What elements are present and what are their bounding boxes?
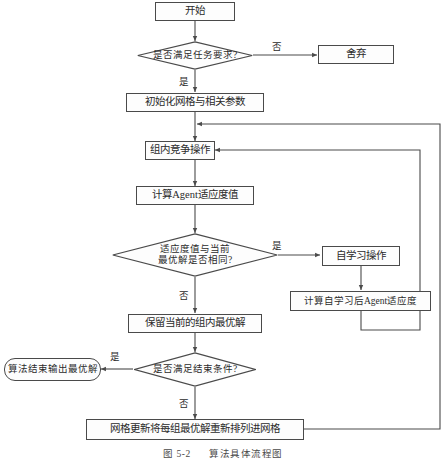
node-compare-best: 适应度值与当前 最优解是否相同? bbox=[112, 233, 278, 277]
edge-label-stop-no: 否 bbox=[179, 396, 189, 410]
node-discard: 舍弃 bbox=[318, 45, 394, 64]
node-grid-update-label: 网格更新将每组最优解重新排列进网格 bbox=[110, 423, 280, 435]
decision-shape bbox=[137, 41, 253, 70]
node-discard-label: 舍弃 bbox=[346, 48, 366, 60]
figure-caption-title: 算法具体流程图 bbox=[209, 449, 283, 458]
edge-label-stop-yes: 是 bbox=[110, 349, 120, 363]
node-calc-fitness-label: 计算Agent适应度值 bbox=[152, 189, 238, 201]
node-keep-best-label: 保留当前的组内最优解 bbox=[145, 317, 245, 329]
figure-caption-label: 图 5-2 bbox=[163, 449, 191, 458]
node-calc-fitness-after-label: 计算自学习后Agent适应度 bbox=[304, 296, 417, 307]
node-keep-best: 保留当前的组内最优解 bbox=[128, 314, 262, 333]
node-output-best: 算法结束输出最优解 bbox=[4, 358, 101, 381]
edge-label-task-yes: 是 bbox=[179, 74, 189, 88]
edge-label-task-no: 否 bbox=[272, 39, 282, 53]
node-self-learning: 自学习操作 bbox=[322, 246, 400, 266]
node-grid-update: 网格更新将每组最优解重新排列进网格 bbox=[86, 419, 304, 440]
node-calc-fitness: 计算Agent适应度值 bbox=[136, 186, 254, 205]
node-calc-fitness-after: 计算自学习后Agent适应度 bbox=[290, 291, 431, 311]
node-init-grid: 初始化网格与相关参数 bbox=[126, 93, 264, 112]
flowchart-figure: 开始 是否满足任务要求? 舍弃 初始化网格与相关参数 组内竞争操作 计算Agen… bbox=[0, 0, 446, 458]
node-output-best-label: 算法结束输出最优解 bbox=[8, 364, 98, 375]
figure-caption: 图 5-2 算法具体流程图 bbox=[0, 446, 446, 458]
node-start-label: 开始 bbox=[185, 5, 205, 17]
node-intra-compete-label: 组内竞争操作 bbox=[150, 144, 210, 156]
node-start: 开始 bbox=[155, 2, 235, 21]
node-init-grid-label: 初始化网格与相关参数 bbox=[145, 96, 245, 108]
node-check-stop: 是否满足结束条件? bbox=[134, 352, 256, 387]
edge-label-compare-no: 否 bbox=[179, 288, 189, 302]
decision-shape bbox=[112, 233, 278, 277]
decision-shape bbox=[134, 352, 256, 387]
edge-label-compare-yes: 是 bbox=[272, 238, 282, 252]
node-check-task: 是否满足任务要求? bbox=[137, 41, 253, 70]
node-intra-compete: 组内竞争操作 bbox=[145, 141, 215, 160]
node-self-learning-label: 自学习操作 bbox=[336, 250, 386, 262]
